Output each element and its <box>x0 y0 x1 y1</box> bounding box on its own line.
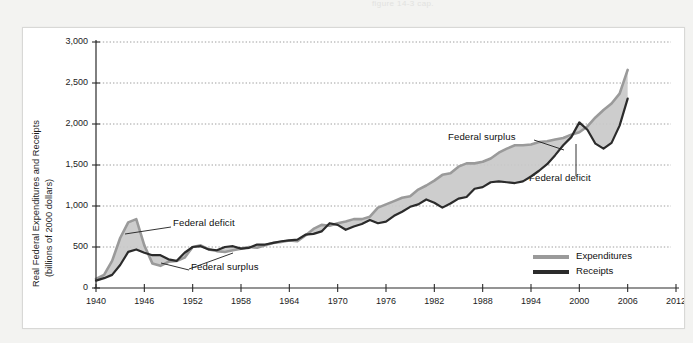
axes-group <box>92 40 679 292</box>
bleed-through-text: figure 14-3 cap. <box>372 0 434 8</box>
chart-plot <box>23 28 684 328</box>
page-background: figure 14-3 cap. Real Federal Expenditur… <box>0 0 693 343</box>
surplus-deficit-areas <box>96 70 628 281</box>
legend-swatches <box>533 257 569 272</box>
chart-panel: Real Federal Expenditures and Receipts (… <box>22 27 685 329</box>
series-lines-group <box>96 70 628 281</box>
